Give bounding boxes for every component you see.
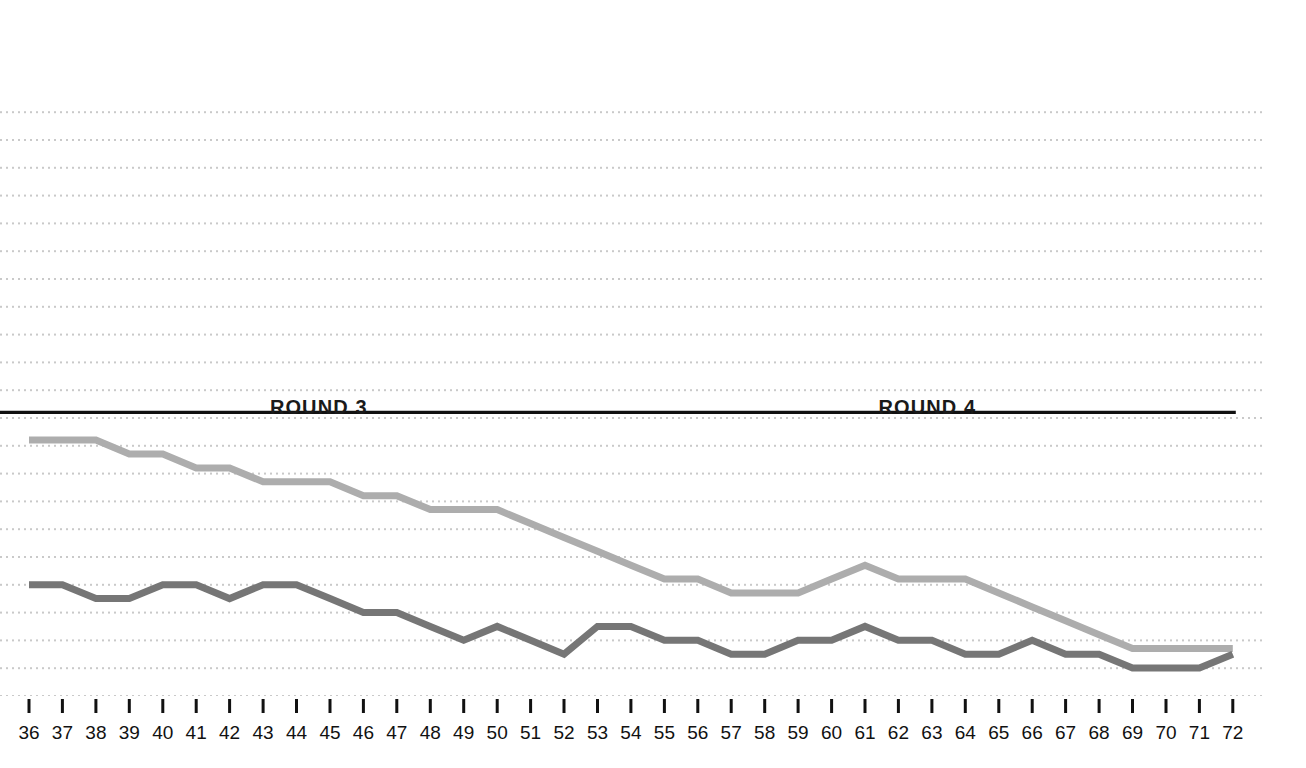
x-axis-tick-label: 59	[788, 722, 809, 744]
x-axis-tick-label: 39	[119, 722, 140, 744]
dark-gray-line	[29, 585, 1233, 668]
x-axis-tick-label: 40	[152, 722, 173, 744]
x-axis-tick-label: 58	[754, 722, 775, 744]
x-axis-tick-label: 67	[1055, 722, 1076, 744]
x-axis-tick-label: 61	[854, 722, 875, 744]
x-axis-tick-label: 56	[687, 722, 708, 744]
x-axis-tick-label: 53	[587, 722, 608, 744]
x-axis-tick-label: 49	[453, 722, 474, 744]
x-axis-tick-label: 63	[921, 722, 942, 744]
x-axis-tick-label: 36	[18, 722, 39, 744]
x-axis-tick-label: 71	[1189, 722, 1210, 744]
x-axis-tick-label: 60	[821, 722, 842, 744]
x-axis-tick-label: 48	[420, 722, 441, 744]
x-axis-tick-label: 69	[1122, 722, 1143, 744]
round-4-label: ROUND 4	[879, 396, 977, 419]
x-axis-tick-label: 57	[721, 722, 742, 744]
x-axis-tick-label: 54	[620, 722, 641, 744]
x-axis-tick-label: 45	[319, 722, 340, 744]
series-light-gray	[29, 440, 1233, 648]
series-dark-gray	[29, 585, 1233, 668]
x-axis-tick-label: 46	[353, 722, 374, 744]
x-axis-tick-label: 68	[1089, 722, 1110, 744]
x-axis-tick-label: 44	[286, 722, 307, 744]
x-axis-tick-label: 41	[186, 722, 207, 744]
x-axis-tick-label: 55	[654, 722, 675, 744]
x-axis-tick-label: 50	[487, 722, 508, 744]
top-margin	[0, 0, 1306, 84]
chart-canvas: ROUND 3 ROUND 4 363738394041424344454647…	[0, 0, 1306, 768]
round-3-label: ROUND 3	[270, 396, 368, 419]
x-axis-tick-label: 43	[253, 722, 274, 744]
right-margin	[1262, 0, 1306, 768]
x-axis-ticks	[29, 699, 1233, 713]
x-axis-tick-label: 52	[553, 722, 574, 744]
light-gray-line	[29, 440, 1233, 648]
x-axis-tick-label: 47	[386, 722, 407, 744]
x-axis-tick-label: 66	[1022, 722, 1043, 744]
x-axis-tick-label: 65	[988, 722, 1009, 744]
x-axis-tick-label: 37	[52, 722, 73, 744]
x-axis-tick-label: 62	[888, 722, 909, 744]
x-axis-tick-label: 72	[1222, 722, 1243, 744]
x-axis-tick-label: 51	[520, 722, 541, 744]
x-axis-tick-label: 70	[1155, 722, 1176, 744]
x-axis-tick-label: 42	[219, 722, 240, 744]
chart-plot-area	[0, 0, 1306, 768]
x-axis-tick-label: 64	[955, 722, 976, 744]
x-axis-tick-label: 38	[85, 722, 106, 744]
